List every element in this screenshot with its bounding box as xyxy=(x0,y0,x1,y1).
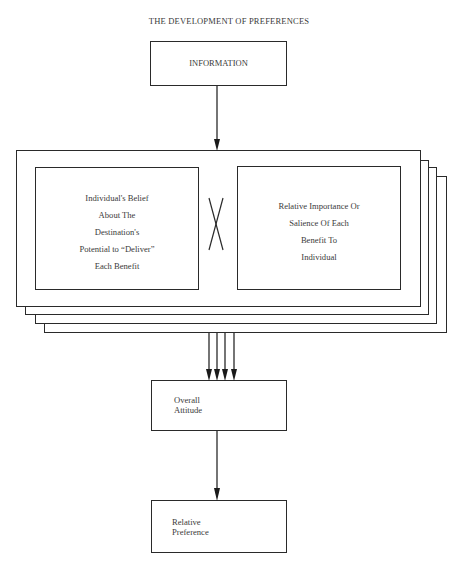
multiply-icon xyxy=(209,198,223,250)
connectors xyxy=(0,0,458,566)
arrow-attitude-to-preference xyxy=(214,431,220,501)
arrow-information-to-stack xyxy=(214,86,220,151)
arrows-stack-to-attitude xyxy=(206,333,237,381)
